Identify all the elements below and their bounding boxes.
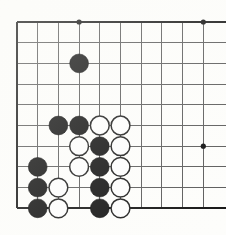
stone-black-3-2[interactable] — [70, 54, 89, 73]
stone-black-4-8[interactable] — [90, 178, 109, 197]
stone-black-1-9[interactable] — [28, 199, 47, 218]
stone-white-2-8[interactable] — [49, 178, 68, 197]
go-board-diagram — [0, 0, 226, 235]
stone-black-1-7[interactable] — [28, 158, 47, 177]
stone-black-4-6[interactable] — [90, 137, 109, 156]
stone-black-2-5[interactable] — [49, 116, 68, 135]
stone-white-5-8[interactable] — [111, 178, 130, 197]
stone-black-4-9[interactable] — [90, 199, 109, 218]
star-point-3-0 — [77, 19, 82, 24]
stone-black-1-8[interactable] — [28, 178, 47, 197]
stone-black-4-7[interactable] — [90, 158, 109, 177]
stone-white-5-7[interactable] — [111, 158, 130, 177]
stone-white-5-6[interactable] — [111, 137, 130, 156]
star-point-9-0 — [201, 19, 206, 24]
stone-white-3-7[interactable] — [70, 158, 89, 177]
stone-white-3-6[interactable] — [70, 137, 89, 156]
stone-black-3-5[interactable] — [70, 116, 89, 135]
stone-white-5-5[interactable] — [111, 116, 130, 135]
stone-white-2-9[interactable] — [49, 199, 68, 218]
go-board-canvas[interactable] — [0, 0, 226, 235]
stone-white-4-5[interactable] — [90, 116, 109, 135]
star-point-9-6 — [201, 144, 206, 149]
stone-white-5-9[interactable] — [111, 199, 130, 218]
